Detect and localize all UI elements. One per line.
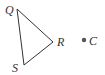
- label-c: C: [89, 34, 98, 48]
- geometry-diagram: Q R S C: [0, 0, 105, 75]
- label-r: R: [56, 35, 65, 49]
- label-s: S: [12, 61, 18, 75]
- triangle-qrs: [17, 9, 53, 65]
- point-c-dot: [82, 38, 86, 42]
- label-q: Q: [5, 3, 14, 17]
